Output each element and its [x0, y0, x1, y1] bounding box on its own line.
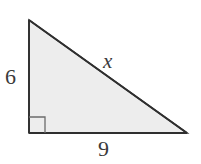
side-label-base: 9: [98, 138, 109, 160]
side-label-hypotenuse: x: [103, 51, 112, 72]
right-triangle-figure: 6 x 9: [0, 0, 201, 164]
side-label-vertical-leg: 6: [5, 66, 16, 88]
